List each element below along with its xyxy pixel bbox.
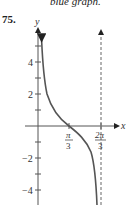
ytick-label-2: 2 [28, 89, 33, 100]
xtick-label-pi3-num: π [66, 130, 71, 140]
y-axis-label: y [34, 16, 40, 27]
cotangent-curve [42, 38, 97, 205]
xtick-label-pi3-den: 3 [66, 141, 71, 151]
ytick-label-m4: −4 [22, 185, 33, 196]
xtick-label-2pi3-num: 2π [95, 130, 105, 140]
ytick-label-4: 4 [28, 57, 33, 68]
cotangent-graph: y x 4 2 −2 −4 π 3 2π 3 [0, 0, 129, 205]
ytick-label-m2: −2 [22, 153, 33, 164]
xtick-label-2pi3-den: 3 [98, 141, 103, 151]
x-axis-label: x [120, 120, 126, 131]
